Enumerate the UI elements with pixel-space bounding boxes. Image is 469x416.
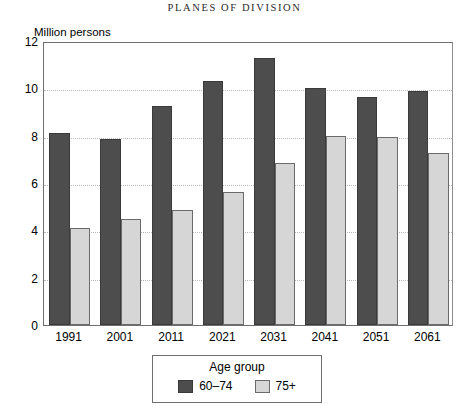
bar-group-2031: [249, 43, 300, 325]
bar-2001-60–74: [100, 139, 121, 325]
bar-group-2061: [403, 43, 454, 325]
bar-2061-75+: [428, 153, 449, 325]
legend: Age group 60–7475+: [152, 355, 322, 403]
x-tick-2011: 2011: [146, 330, 197, 344]
bar-2041-75+: [326, 136, 347, 325]
legend-label-60–74: 60–74: [199, 379, 232, 393]
legend-label-75+: 75+: [276, 379, 296, 393]
y-tick-2: 2: [8, 272, 38, 286]
legend-items: 60–7475+: [153, 379, 321, 393]
legend-swatch-75+: [255, 380, 270, 393]
y-tick-6: 6: [8, 177, 38, 191]
bar-2011-60–74: [152, 106, 173, 325]
bar-2001-75+: [121, 219, 142, 326]
bar-group-2041: [300, 43, 351, 325]
x-tick-1991: 1991: [43, 330, 94, 344]
y-tick-8: 8: [8, 130, 38, 144]
y-tick-10: 10: [8, 82, 38, 96]
bar-group-2051: [352, 43, 403, 325]
bar-group-2011: [147, 43, 198, 325]
x-tick-2051: 2051: [351, 330, 402, 344]
bar-2031-60–74: [254, 58, 275, 325]
bar-2011-75+: [172, 210, 193, 325]
x-tick-2001: 2001: [94, 330, 145, 344]
bar-group-1991: [44, 43, 95, 325]
x-tick-2031: 2031: [248, 330, 299, 344]
legend-entry-60–74: 60–74: [178, 379, 232, 393]
legend-title: Age group: [153, 360, 321, 374]
bar-2061-60–74: [408, 91, 429, 325]
bar-2021-60–74: [203, 81, 224, 325]
legend-swatch-60–74: [178, 380, 193, 393]
bar-2051-60–74: [357, 97, 378, 325]
bar-2031-75+: [275, 163, 296, 325]
y-tick-0: 0: [8, 319, 38, 333]
y-tick-4: 4: [8, 224, 38, 238]
bar-2051-75+: [377, 137, 398, 325]
y-tick-12: 12: [8, 35, 38, 49]
bar-1991-75+: [70, 228, 91, 325]
bar-group-2001: [95, 43, 146, 325]
bar-1991-60–74: [49, 133, 70, 325]
bar-2041-60–74: [305, 88, 326, 325]
y-axis-title: Million persons: [34, 26, 111, 38]
bar-2021-75+: [223, 192, 244, 325]
x-tick-2061: 2061: [402, 330, 453, 344]
bar-group-2021: [198, 43, 249, 325]
x-tick-2041: 2041: [299, 330, 350, 344]
x-tick-2021: 2021: [197, 330, 248, 344]
legend-entry-75+: 75+: [255, 379, 296, 393]
running-head: PLANES OF DIVISION: [0, 2, 469, 13]
plot-area: [43, 42, 453, 326]
y-axis-tick-labels: 024681012: [5, 42, 38, 326]
